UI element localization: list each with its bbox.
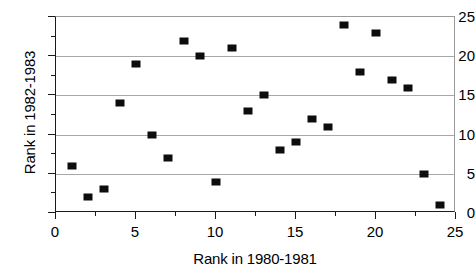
data-point xyxy=(100,186,109,193)
x-tick-label-0: 0 xyxy=(35,224,75,239)
y-tick-15 xyxy=(48,94,55,95)
plot-area xyxy=(55,16,455,212)
x-minor-tick xyxy=(175,212,176,216)
data-point xyxy=(212,178,221,185)
data-point xyxy=(196,53,205,60)
data-point xyxy=(228,45,237,52)
data-point xyxy=(116,100,125,107)
data-point xyxy=(84,194,93,201)
data-point xyxy=(276,147,285,154)
y-axis-title: Rank in 1982-1983 xyxy=(21,8,38,218)
gridline-y-5 xyxy=(56,174,454,175)
x-tick-0 xyxy=(55,212,56,219)
data-point xyxy=(372,29,381,36)
y-tick-10 xyxy=(48,134,55,135)
y-tick-25 xyxy=(48,16,55,17)
data-point xyxy=(148,131,157,138)
data-point xyxy=(292,139,301,146)
data-point xyxy=(388,76,397,83)
scatter-chart: Rank in 1982-1983 0510152025 0510152025 … xyxy=(0,0,475,274)
data-point xyxy=(180,37,189,44)
x-tick-25 xyxy=(455,212,456,219)
x-tick-10 xyxy=(215,212,216,219)
x-axis-title: Rank in 1980-1981 xyxy=(55,250,455,267)
gridline-y-15 xyxy=(56,95,454,96)
x-tick-label-20: 20 xyxy=(355,224,395,239)
x-tick-label-5: 5 xyxy=(115,224,155,239)
data-point xyxy=(68,162,77,169)
data-point xyxy=(356,68,365,75)
data-point xyxy=(132,61,141,68)
x-tick-20 xyxy=(375,212,376,219)
x-tick-5 xyxy=(135,212,136,219)
x-tick-label-10: 10 xyxy=(195,224,235,239)
x-minor-tick xyxy=(95,212,96,216)
x-tick-15 xyxy=(295,212,296,219)
data-point xyxy=(340,21,349,28)
gridline-y-10 xyxy=(56,135,454,136)
data-point xyxy=(164,155,173,162)
data-point xyxy=(260,92,269,99)
x-tick-label-15: 15 xyxy=(275,224,315,239)
data-point xyxy=(244,108,253,115)
data-point xyxy=(436,202,445,209)
y-tick-20 xyxy=(48,55,55,56)
x-minor-tick xyxy=(415,212,416,216)
y-tick-5 xyxy=(48,173,55,174)
data-point xyxy=(420,170,429,177)
data-point xyxy=(404,84,413,91)
data-point xyxy=(308,115,317,122)
y-tick-0 xyxy=(48,212,55,213)
x-minor-tick xyxy=(255,212,256,216)
gridline-y-20 xyxy=(56,56,454,57)
x-tick-label-25: 25 xyxy=(435,224,475,239)
data-point xyxy=(324,123,333,130)
x-minor-tick xyxy=(335,212,336,216)
